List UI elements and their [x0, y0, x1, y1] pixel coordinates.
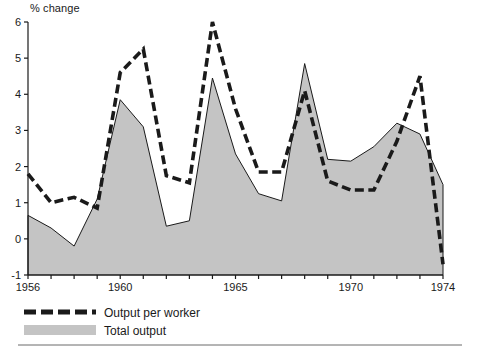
legend-label: Total output: [104, 324, 167, 338]
y-tick-label: 2: [15, 161, 21, 173]
y-tick-label: 1: [15, 197, 21, 209]
x-tick-label: 1965: [223, 281, 247, 293]
x-tick-label: 1960: [108, 281, 132, 293]
x-tick-label: 1970: [339, 281, 363, 293]
legend-label: Output per worker: [104, 306, 200, 320]
series-area-total-output: [28, 64, 443, 275]
x-axis: 19561960196519701974: [16, 275, 455, 293]
y-tick-label: 5: [15, 52, 21, 64]
chart-canvas: -10123456 19561960196519701974 Output pe…: [0, 0, 478, 357]
y-tick-label: 6: [15, 16, 21, 28]
chart-legend: Output per workerTotal output: [24, 306, 200, 338]
y-tick-label: 0: [15, 233, 21, 245]
y-tick-label: 3: [15, 124, 21, 136]
x-tick-label: 1974: [431, 281, 455, 293]
y-tick-label: 4: [15, 88, 21, 100]
chart-figure: % change -10123456 19561960196519701974 …: [0, 0, 478, 357]
legend-swatch-total-output: [24, 325, 96, 335]
y-tick-label: -1: [11, 269, 21, 281]
plot-area: [28, 22, 443, 275]
x-tick-label: 1956: [16, 281, 40, 293]
y-axis: -10123456: [11, 16, 28, 281]
